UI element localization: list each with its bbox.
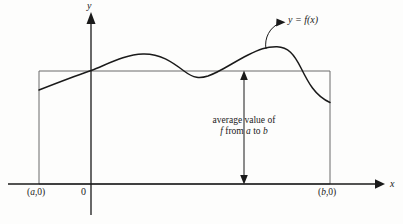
average-value-line-1: average value of [194,115,294,126]
function-curve [39,47,330,103]
curve-label-leader [266,18,286,49]
right-endpoint-label: (b,0) [318,187,336,198]
left-endpoint-rest: ,0) [35,187,45,197]
average-value-figure: y x 0 (a,0) (b,0) y = f(x) average value… [0,0,403,224]
average-value-to-text: to [251,126,263,136]
origin-label: 0 [81,186,86,197]
average-value-line-2: f from a to b [194,126,294,137]
average-value-from-text: from [223,126,246,136]
x-axis-label: x [390,178,394,189]
average-value-upper-limit: b [263,126,268,136]
curve-label: y = f(x) [288,14,318,25]
y-axis-label: y [87,0,91,11]
figure-canvas [0,0,403,224]
average-value-annotation: average value of f from a to b [194,115,294,136]
right-endpoint-rest: ,0) [326,187,336,197]
left-endpoint-label: (a,0) [27,187,45,198]
